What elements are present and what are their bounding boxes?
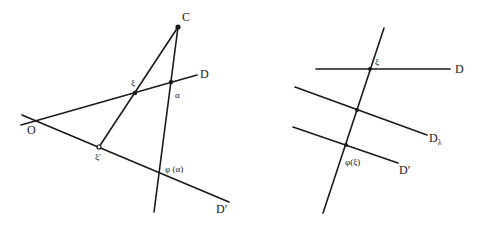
right-figure: ξ D Dλ φ(ξ) D′ (293, 28, 464, 213)
label-phi-xi: φ(ξ) (345, 157, 360, 167)
label-C: C (182, 10, 190, 24)
label-D-prime: D′ (399, 163, 411, 177)
point-phi-xi (344, 143, 348, 147)
label-xi: ξ (131, 78, 135, 88)
transversal-line (323, 28, 384, 213)
line-D-prime (22, 115, 229, 202)
label-O: O (27, 123, 36, 137)
left-figure: C D O ξ α ξ′ φ (α) D′ (21, 10, 229, 216)
point-alpha (169, 80, 173, 84)
label-xi-prime: ξ′ (95, 152, 101, 162)
label-phi-alpha: φ (α) (165, 164, 183, 174)
line-C-xi-prime (99, 27, 178, 147)
label-D-prime: D′ (216, 202, 228, 216)
label-D: D (200, 67, 209, 81)
label-D: D (455, 62, 464, 76)
line-D-lambda (295, 87, 427, 135)
label-xi: ξ (375, 57, 379, 67)
label-alpha: α (175, 90, 180, 100)
projective-diagram: C D O ξ α ξ′ φ (α) D′ ξ D Dλ φ(ξ) D′ (0, 0, 481, 226)
label-D-lambda: Dλ (429, 131, 442, 147)
point-C (175, 24, 180, 29)
line-C-phi-alpha (154, 27, 178, 212)
point-xi (133, 91, 137, 95)
point-D-lambda-intersection (355, 108, 359, 112)
point-xi-prime (97, 145, 101, 149)
point-xi (368, 67, 372, 71)
